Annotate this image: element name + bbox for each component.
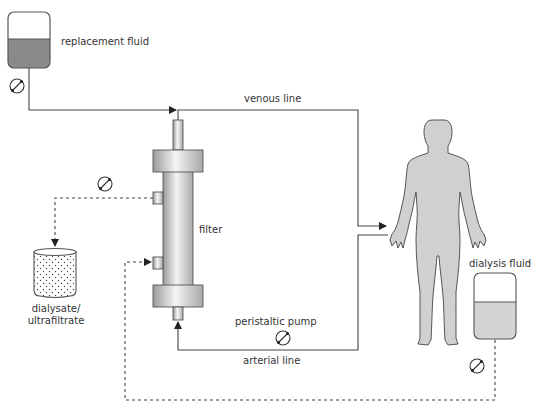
dialysate-label-line2: ultrafiltrate bbox=[20, 315, 92, 327]
arterial-line-label: arterial line bbox=[243, 355, 300, 367]
replacement-line bbox=[29, 68, 176, 110]
filter-outlet-port bbox=[153, 192, 163, 204]
dialysate-label-line1: dialysate/ bbox=[20, 303, 92, 315]
peristaltic-pump-label: peristaltic pump bbox=[235, 316, 317, 328]
dialysis-fluid-label: dialysis fluid bbox=[469, 258, 531, 270]
pump-icon bbox=[470, 359, 484, 373]
pump-icon bbox=[98, 177, 112, 191]
ultrafiltrate-line bbox=[55, 198, 153, 246]
dialysate-label: dialysate/ ultrafiltrate bbox=[20, 303, 92, 327]
filter-inlet-port bbox=[153, 257, 163, 269]
replacement-fluid-bag bbox=[8, 12, 50, 68]
dialysate-container bbox=[34, 249, 76, 298]
peristaltic-pump-icon bbox=[276, 331, 290, 345]
replacement-fluid-label: replacement fluid bbox=[61, 36, 149, 48]
pump-icon bbox=[10, 79, 24, 93]
dialysis-fluid-bag bbox=[474, 273, 516, 339]
patient-figure bbox=[390, 120, 486, 345]
venous-line-label: venous line bbox=[244, 93, 301, 105]
filter bbox=[153, 120, 203, 320]
venous-line bbox=[178, 110, 386, 226]
filter-label: filter bbox=[199, 224, 222, 236]
